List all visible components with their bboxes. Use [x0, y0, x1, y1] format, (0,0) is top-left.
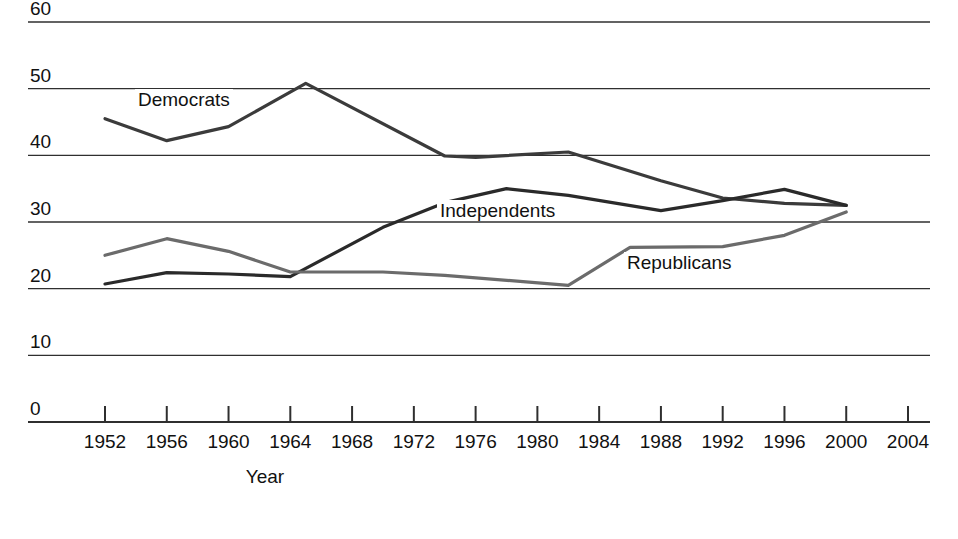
y-tick-label: 10: [30, 331, 51, 353]
x-tick-label: 1956: [146, 431, 188, 453]
series-label-republicans: Republicans: [624, 252, 735, 273]
gridlines-group: [28, 22, 930, 422]
chart-plot-area: [0, 0, 958, 539]
x-tick-label: 1984: [578, 431, 620, 453]
x-tick-label: 2000: [825, 431, 867, 453]
y-tick-label: 0: [30, 398, 41, 420]
x-tick-label: 1992: [702, 431, 744, 453]
x-tick-label: 1988: [640, 431, 682, 453]
y-tick-label: 30: [30, 198, 51, 220]
series-label-democrats: Democrats: [135, 89, 233, 110]
y-tick-label: 60: [30, 0, 51, 20]
x-axis-title: Year: [246, 466, 284, 488]
x-tick-label: 1980: [516, 431, 558, 453]
x-tick-label: 1996: [763, 431, 805, 453]
line-chart: 0102030405060 19521956196019641968197219…: [0, 0, 958, 539]
y-tick-label: 20: [30, 265, 51, 287]
x-tick-label: 1952: [84, 431, 126, 453]
data-series-group: [105, 83, 846, 285]
x-tick-label: 1976: [454, 431, 496, 453]
y-tick-label: 40: [30, 131, 51, 153]
x-tick-label: 2004: [887, 431, 929, 453]
x-tick-label: 1960: [207, 431, 249, 453]
x-tick-label: 1964: [269, 431, 311, 453]
series-label-independents: Independents: [437, 200, 558, 221]
x-tick-label: 1968: [331, 431, 373, 453]
x-tick-label: 1972: [393, 431, 435, 453]
y-tick-label: 50: [30, 65, 51, 87]
x-tick-marks-group: [105, 406, 908, 422]
